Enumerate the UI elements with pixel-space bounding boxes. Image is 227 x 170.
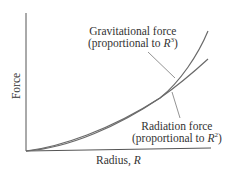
- gravitational-force-annotation: Gravitational force (proportional to R3): [88, 25, 178, 49]
- x-axis-label-variable: R: [134, 154, 141, 166]
- x-axis-label-text: Radius,: [96, 154, 134, 166]
- radiation-label-prefix: (proportional to: [132, 132, 207, 144]
- gravitational-label-suffix: ): [174, 37, 178, 49]
- y-axis-label: Force: [10, 66, 22, 106]
- gravitational-label-prefix: (proportional to: [88, 37, 163, 49]
- gravitational-label-line2: (proportional to R3): [88, 37, 178, 49]
- radiation-label-suffix: ): [218, 132, 222, 144]
- radiation-label-line1: Radiation force: [132, 120, 222, 132]
- x-axis-label: Radius, R: [96, 154, 141, 166]
- radiation-label-line2: (proportional to R2): [132, 132, 222, 144]
- radiation-force-annotation: Radiation force (proportional to R2): [132, 120, 222, 144]
- radiation-leader-line: [172, 92, 180, 118]
- gravitational-leader-line: [148, 52, 175, 78]
- x-axis: [26, 148, 211, 151]
- gravitational-label-line1: Gravitational force: [88, 25, 178, 37]
